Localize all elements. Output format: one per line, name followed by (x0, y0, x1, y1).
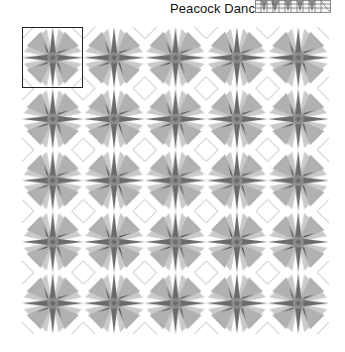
header: Peacock Dance (0, 0, 345, 20)
pattern-thumbnail-icon[interactable] (255, 0, 331, 13)
pattern-canvas (22, 27, 329, 334)
pattern-grid (22, 27, 329, 334)
pattern-title: Peacock Dance (170, 1, 262, 16)
